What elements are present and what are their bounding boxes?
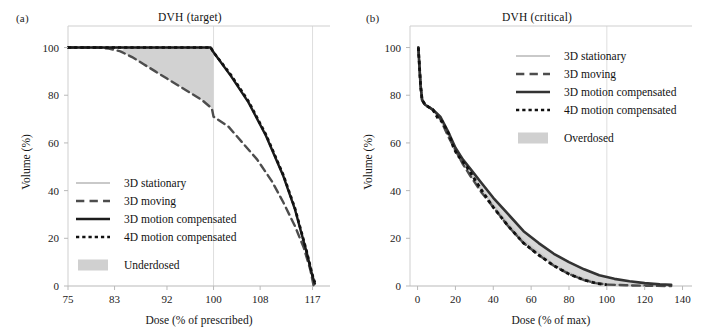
y-tick-label: 80 <box>390 89 402 101</box>
legend-label: 3D moving <box>124 195 176 208</box>
chart-a-xaxis-title: Dose (% of prescribed) <box>146 314 253 327</box>
x-tick-label: 120 <box>636 293 653 305</box>
y-tick-label: 40 <box>390 185 402 197</box>
dvh-figure: (a) DVH (target) 75839210010811702040608… <box>0 0 704 335</box>
series-line-4d-motion-compensated <box>418 48 607 285</box>
y-tick-label: 100 <box>385 42 402 54</box>
x-tick-label: 100 <box>599 293 616 305</box>
chart-a-legend: 3D stationary3D moving3D motion compensa… <box>76 177 237 271</box>
y-tick-label: 80 <box>48 89 60 101</box>
x-tick-label: 140 <box>674 293 691 305</box>
panel-b: (b) DVH (critical) 020406080100120140020… <box>352 0 704 335</box>
chart-b-xaxis-title: Dose (% of max) <box>512 314 591 327</box>
chart-b-tick-labels: 020406080100120140020406080100 <box>385 42 692 305</box>
y-tick-label: 40 <box>48 185 60 197</box>
y-tick-label: 60 <box>390 137 402 149</box>
panel-b-title: DVH (critical) <box>447 11 627 23</box>
y-tick-label: 0 <box>54 280 60 292</box>
y-tick-label: 20 <box>390 232 402 244</box>
x-tick-label: 117 <box>304 293 321 305</box>
x-tick-label: 0 <box>415 293 421 305</box>
x-tick-label: 60 <box>526 293 538 305</box>
legend-label: 3D stationary <box>564 50 627 63</box>
x-tick-label: 20 <box>450 293 462 305</box>
x-tick-label: 75 <box>63 293 75 305</box>
legend-label: 3D stationary <box>124 177 187 190</box>
legend-label: 3D motion compensated <box>124 213 237 226</box>
x-tick-label: 108 <box>252 293 269 305</box>
x-tick-label: 80 <box>563 293 575 305</box>
chart-b-yaxis-title: Volume (%) <box>362 134 375 190</box>
chart-a-yaxis-title: Volume (%) <box>20 134 33 190</box>
x-tick-label: 100 <box>205 293 222 305</box>
panel-b-tag: (b) <box>366 12 379 24</box>
legend-label: 3D moving <box>564 68 616 81</box>
chart-a-gridlines <box>214 26 313 286</box>
legend-swatch-patch <box>78 260 108 271</box>
x-tick-label: 92 <box>161 293 172 305</box>
legend-label: Underdosed <box>124 259 180 271</box>
legend-swatch-patch <box>518 133 548 144</box>
chart-b-shaded-region <box>455 148 671 285</box>
y-tick-label: 0 <box>396 280 402 292</box>
panel-a-tag: (a) <box>16 12 29 24</box>
panel-a-title: DVH (target) <box>100 11 280 23</box>
chart-b-legend: 3D stationary3D moving3D motion compensa… <box>516 50 677 144</box>
legend-label: 3D motion compensated <box>564 86 677 99</box>
chart-a-canvas: 758392100108117020406080100 3D stationar… <box>0 0 352 335</box>
chart-b-canvas: 020406080100120140020406080100 3D statio… <box>352 0 704 335</box>
chart-b-frame <box>410 26 692 286</box>
y-tick-label: 100 <box>43 42 60 54</box>
x-tick-label: 40 <box>488 293 500 305</box>
legend-label: Overdosed <box>564 132 614 144</box>
x-tick-label: 83 <box>109 293 121 305</box>
y-tick-label: 20 <box>48 232 60 244</box>
legend-label: 4D motion compensated <box>124 231 237 244</box>
panel-a: (a) DVH (target) 75839210010811702040608… <box>0 0 352 335</box>
y-tick-label: 60 <box>48 137 60 149</box>
legend-label: 4D motion compensated <box>564 104 677 117</box>
